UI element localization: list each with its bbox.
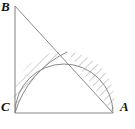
vertex-label-c: C: [1, 100, 10, 113]
vertex-label-b: B: [1, 0, 10, 13]
triangle-hypotenuse-ba: [15, 6, 113, 113]
vertex-label-a: A: [120, 100, 129, 113]
figure-canvas: [0, 0, 135, 129]
geometry-figure: B C A: [0, 0, 135, 129]
